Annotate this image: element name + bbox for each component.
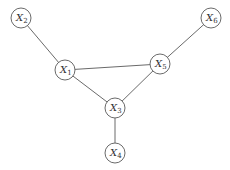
node-x2: X2 [11, 8, 31, 28]
node-x6: X6 [201, 8, 221, 28]
node-x4: X4 [105, 143, 125, 163]
node-x1: X1 [55, 60, 75, 80]
edge-x1-x5 [65, 64, 160, 70]
node-x5: X5 [150, 54, 170, 74]
graph-diagram: X1X2X3X4X5X6 [0, 0, 230, 170]
node-x3: X3 [105, 98, 125, 118]
graph-canvas: X1X2X3X4X5X6 [0, 0, 230, 170]
